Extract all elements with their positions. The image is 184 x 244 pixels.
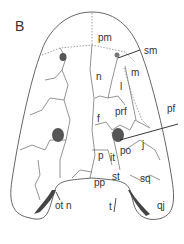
left-pit xyxy=(60,53,67,61)
label-l: l xyxy=(120,82,122,92)
label-m: m xyxy=(131,68,139,78)
label-it: it xyxy=(110,153,115,163)
label-f: f xyxy=(97,114,100,124)
sm-pit xyxy=(115,53,120,58)
label-pf: pf xyxy=(167,104,175,114)
label-j: j xyxy=(142,140,144,150)
label-po: po xyxy=(120,146,131,156)
label-pp: pp xyxy=(94,178,105,188)
label-prf: prf xyxy=(115,107,127,117)
label-n: n xyxy=(96,72,102,82)
panel-label: B xyxy=(15,19,24,33)
label-p: p xyxy=(98,151,104,161)
label-sq: sq xyxy=(140,174,151,184)
label-st: st xyxy=(112,172,120,182)
label-t: t xyxy=(109,202,112,212)
label-pm: pm xyxy=(98,33,112,43)
label-qj: qj xyxy=(157,201,165,211)
right-orbit-mark xyxy=(112,128,124,142)
label-ot-n: ot n xyxy=(55,201,72,211)
left-orbit-mark xyxy=(52,128,64,142)
label-sm: sm xyxy=(144,46,157,56)
